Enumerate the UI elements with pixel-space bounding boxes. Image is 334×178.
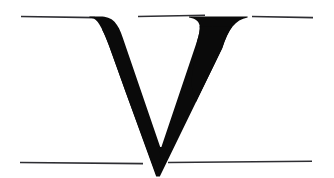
letter-specimen-canvas: V bbox=[0, 0, 334, 178]
specimen-artwork bbox=[0, 0, 334, 178]
